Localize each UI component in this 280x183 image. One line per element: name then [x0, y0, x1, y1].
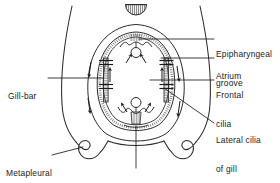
flow-arrow — [177, 66, 179, 80]
label-metapleural-fold: Metapleural fold — [6, 150, 52, 183]
label-gill-bar-line1: Gill-bar — [8, 92, 37, 102]
label-lateral-cilia-line2: of gill — [216, 165, 261, 175]
figure-root: Epipharyngeal groove Atrium Frontal cili… — [0, 0, 280, 183]
label-frontal-cilia-line1: Frontal — [216, 91, 243, 101]
label-gill-bar: Gill-bar — [8, 73, 37, 121]
label-lateral-cilia-of-gill: Lateral cilia of gill — [216, 117, 261, 183]
label-lateral-cilia-line1: Lateral cilia — [216, 136, 261, 146]
label-metapleural-fold-line1: Metapleural — [6, 169, 52, 179]
dorsal-fin-ray — [126, 5, 147, 16]
label-endostyle: Endostyle — [139, 164, 178, 183]
